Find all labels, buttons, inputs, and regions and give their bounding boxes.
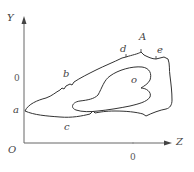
- z-tick-label: 0: [130, 153, 136, 162]
- point-b-label: b: [63, 69, 69, 79]
- diagram-canvas: Y Z O 0 0 a b c d A e o: [0, 0, 194, 172]
- origin-label: O: [8, 145, 16, 155]
- point-e-label: e: [157, 45, 163, 55]
- z-axis-arrow-icon: [164, 141, 172, 146]
- inner-contour: [73, 67, 151, 112]
- y-tick-label: 0: [14, 74, 20, 83]
- diagram-drawing: [0, 0, 194, 172]
- y-axis-arrow-icon: [22, 16, 27, 24]
- point-o-label: o: [131, 75, 137, 85]
- point-c-label: c: [64, 122, 70, 132]
- point-A-label: A: [139, 32, 146, 42]
- point-a-label: a: [13, 105, 19, 115]
- z-axis-label: Z: [176, 137, 183, 147]
- point-d-label: d: [120, 44, 126, 54]
- y-axis-label: Y: [7, 13, 14, 23]
- outer-contour: [25, 52, 172, 117]
